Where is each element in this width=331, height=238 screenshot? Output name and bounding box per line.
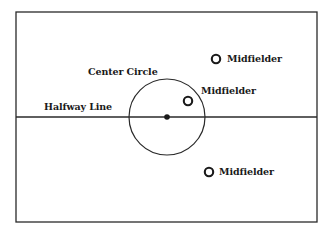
- center-spot: [164, 114, 170, 120]
- midfielder-marker-icon: [212, 55, 220, 63]
- midfielder-label: Midfielder: [227, 54, 282, 64]
- midfielder-marker-icon: [205, 168, 213, 176]
- center-circle-label: Center Circle: [88, 67, 158, 77]
- soccer-field-diagram: Center Circle Halfway Line Midfielder Mi…: [0, 0, 331, 238]
- midfielder-label: Midfielder: [201, 86, 256, 96]
- midfielder-label: Midfielder: [219, 167, 274, 177]
- halfway-line-label: Halfway Line: [44, 102, 112, 112]
- midfielder-marker-icon: [184, 97, 192, 105]
- players-layer: [184, 55, 220, 176]
- field-drawing: [0, 0, 331, 238]
